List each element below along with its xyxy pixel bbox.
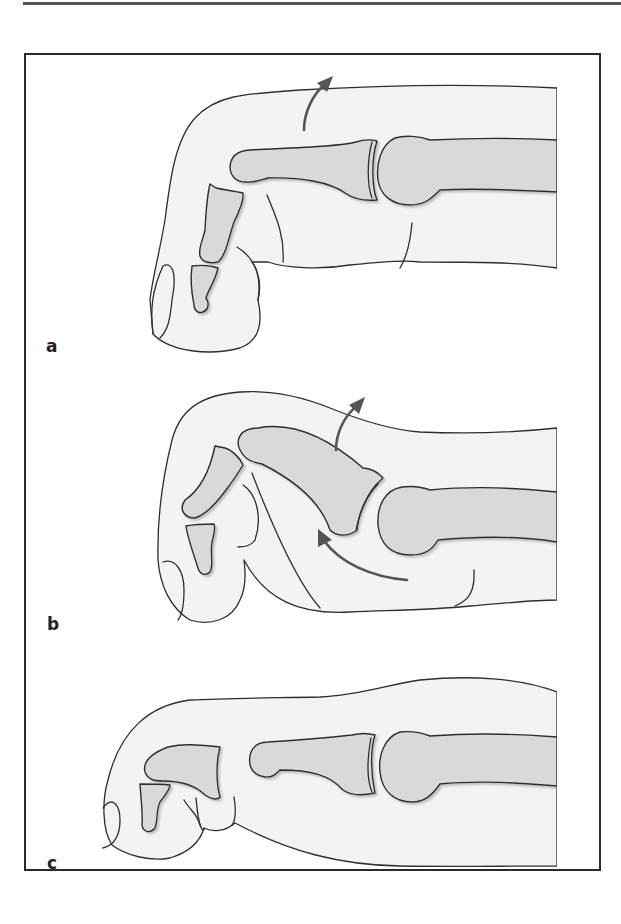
panel-c-drawing [103, 678, 557, 867]
panel-label-a: a [46, 338, 57, 355]
panel-label-c: c [47, 855, 57, 872]
panel-b-drawing [158, 392, 557, 623]
panel-label-b: b [47, 616, 59, 633]
finger-illustration [0, 0, 621, 924]
panel-a-drawing [150, 76, 557, 352]
